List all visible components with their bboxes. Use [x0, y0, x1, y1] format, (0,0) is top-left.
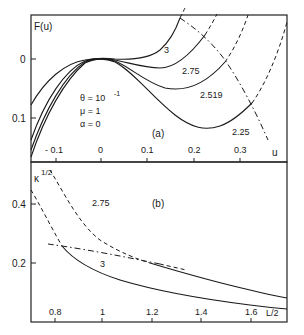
panel-b-x-ticks	[55, 318, 251, 322]
panel-a-ytick-0: 0	[20, 54, 26, 65]
figure: F(u) 0 0.1 - 0.1 0 0.1 0.2 0.3 u θ = 10 …	[0, 0, 304, 335]
curve-3-dashed	[180, 8, 185, 18]
panel-b-xtick-1.4: 1.4	[195, 307, 208, 317]
panel-a-xtick-0: 0	[98, 145, 103, 155]
curve-b-label-3: 3	[100, 259, 105, 269]
param-theta-exp: -1	[114, 90, 120, 97]
panel-a-x-ticks	[56, 158, 240, 162]
curve-label-2.75: 2.75	[182, 66, 200, 76]
panel-b-xtick-1.6: 1.6	[245, 307, 258, 317]
panel-b-xtick-0.8: 0.8	[49, 307, 62, 317]
curve-label-2.25: 2.25	[232, 127, 250, 137]
panel-a-frame	[31, 15, 287, 162]
panel-b-curves	[31, 170, 287, 309]
panel-b-frame	[31, 162, 287, 322]
panel-a-xtick-0.2: 0.2	[188, 145, 201, 155]
curve-2.75	[31, 35, 205, 140]
curve-b-3	[62, 246, 287, 309]
panel-a-xtick-neg0.1: - 0.1	[45, 145, 63, 155]
panel-b-ytick-0.2: 0.2	[12, 258, 26, 269]
panel-a-y-ticks	[31, 59, 36, 118]
param-theta: θ = 10	[80, 93, 105, 103]
minima-locus	[180, 18, 268, 140]
panel-b-ytick-0.4: 0.4	[12, 199, 26, 210]
panel-a-xtick-0.3: 0.3	[234, 145, 247, 155]
curve-2.25-dashed	[252, 22, 287, 103]
panel-b-ylabel: κ	[34, 173, 40, 184]
panel-b-y-ticks	[31, 204, 36, 263]
panel-b-xtick-1: 1	[100, 307, 105, 317]
curve-2.25	[31, 59, 252, 157]
panel-b-tag: (b)	[152, 198, 164, 209]
panel-b-xtick-1.2: 1.2	[146, 307, 159, 317]
panel-a-ylabel: F(u)	[34, 21, 52, 32]
panel-a-xlabel: u	[272, 147, 278, 158]
curve-b-label-2.75: 2.75	[92, 198, 110, 208]
curve-b-3-dashed	[31, 190, 62, 246]
curve-label-3: 3	[164, 45, 169, 55]
param-alpha: α = 0	[80, 119, 100, 129]
curve-2.75-dashed	[205, 14, 217, 35]
panel-a-ytick-0.1: 0.1	[12, 113, 26, 124]
curve-2.519-dashed	[225, 15, 248, 62]
curve-label-2.519: 2.519	[200, 90, 223, 100]
panel-a-xtick-0.1: 0.1	[141, 145, 154, 155]
panel-b-xlabel: L/2	[266, 308, 279, 318]
param-mu: μ = 1	[80, 106, 100, 116]
panel-a-tag: (a)	[152, 128, 164, 139]
